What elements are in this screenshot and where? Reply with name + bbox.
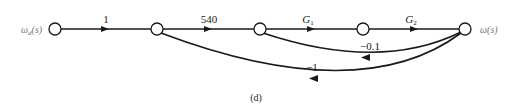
feedback-branch-minus-1 (161, 33, 461, 82)
arrow-icon (101, 26, 109, 32)
gain-label-540: 540 (201, 13, 218, 25)
node-3 (254, 23, 266, 35)
figure-caption: (d) (250, 92, 262, 104)
forward-branch-1 (61, 26, 151, 32)
arrow-icon (361, 54, 370, 61)
output-label: ω(s) (480, 24, 498, 36)
gain-label-minus-0.1: −0.1 (360, 40, 380, 52)
gain-label-1: 1 (103, 13, 109, 25)
node-output (459, 23, 471, 35)
gain-label-minus-1: −1 (306, 61, 318, 73)
signal-flow-graph: ωd(s) 1 540 G1 G2 −0.1 −1 ω(s) (d) (0, 0, 513, 104)
node-4 (357, 23, 369, 35)
forward-branch-2 (163, 26, 254, 32)
arrow-icon (309, 75, 318, 82)
input-label: ωd(s) (21, 24, 43, 37)
gain-label-g2: G2 (405, 13, 417, 27)
gain-label-g1: G1 (302, 13, 314, 27)
node-2 (151, 23, 163, 35)
node-input (49, 23, 61, 35)
arrow-icon (204, 26, 212, 32)
